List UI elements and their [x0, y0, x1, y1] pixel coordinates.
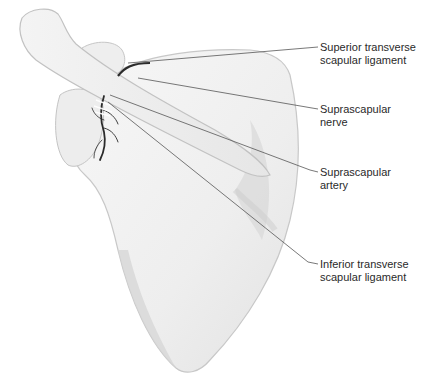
label-inferior-transverse-scapular-ligament: Inferior transverse scapular ligament: [320, 258, 409, 284]
label-line: Superior transverse: [320, 41, 416, 54]
label-line: scapular ligament: [320, 271, 409, 284]
label-superior-transverse-scapular-ligament: Superior transverse scapular ligament: [320, 41, 416, 67]
label-line: Suprascapular: [320, 166, 391, 179]
label-line: scapular ligament: [320, 54, 416, 67]
label-line: artery: [320, 179, 391, 192]
label-line: nerve: [320, 116, 391, 129]
label-line: Suprascapular: [320, 103, 391, 116]
label-suprascapular-artery: Suprascapular artery: [320, 166, 391, 192]
label-line: Inferior transverse: [320, 258, 409, 271]
label-suprascapular-nerve: Suprascapular nerve: [320, 103, 391, 129]
scapula-figure: Superior transverse scapular ligament Su…: [0, 0, 432, 379]
